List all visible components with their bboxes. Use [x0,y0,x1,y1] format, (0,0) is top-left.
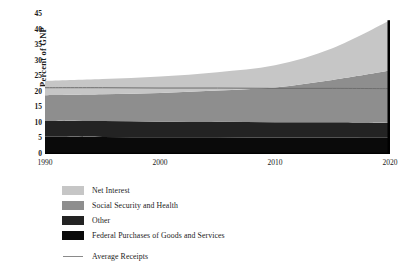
legend-color-swatch [62,201,84,210]
x-tick-label: 2000 [140,158,180,167]
legend-color-swatch [62,231,84,240]
legend-item: Federal Purchases of Goods and Services [62,228,392,243]
x-tick-label: 2010 [255,158,295,167]
chart-figure: Percent of GNP 454035302520151050 199020… [0,0,414,277]
series-layer [45,20,390,154]
legend-item: Net Interest [62,183,392,198]
legend-color-swatch [62,186,84,195]
chart-legend: Net InterestSocial Security and HealthOt… [62,183,392,264]
legend-line-swatch [62,252,84,261]
x-tick-label: 1990 [25,158,65,167]
legend-label: Net Interest [92,186,130,195]
area-band [45,120,390,137]
legend-item: Social Security and Health [62,198,392,213]
legend-label: Social Security and Health [92,201,178,210]
legend-item: Average Receipts [62,249,392,264]
legend-label: Federal Purchases of Goods and Services [92,231,225,240]
stacked-area-chart [45,14,390,154]
legend-item: Other [62,213,392,228]
legend-label: Other [92,216,110,225]
plot-area [45,14,390,154]
x-tick-label: 2020 [370,158,410,167]
legend-label: Average Receipts [92,252,148,261]
area-band [45,137,390,154]
legend-color-swatch [62,216,84,225]
